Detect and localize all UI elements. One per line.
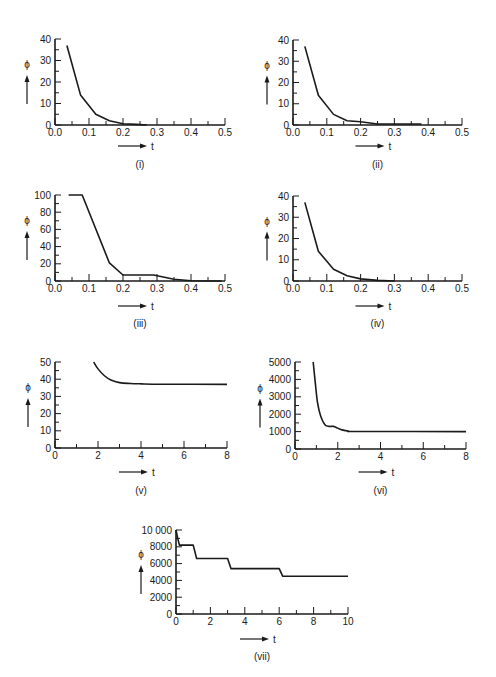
data-series-line [94,362,227,384]
x-tick-label: 6 [420,451,426,462]
data-series-line [305,202,395,281]
y-arrowhead-icon [258,399,263,406]
x-axis-label: t [151,301,154,312]
y-tick-label: 0 [45,443,51,454]
y-arrowhead-icon [265,76,270,83]
y-axis-label: ϕ [24,59,30,70]
y-axis-label: ϕ [264,60,270,71]
x-tick-label: 0.4 [184,127,198,138]
x-tick-label: 0 [173,616,179,627]
x-axis-label: t [152,467,155,478]
x-tick-label: 0.0 [286,283,300,294]
y-tick-label: 40 [40,34,52,45]
data-series-line [69,195,222,281]
x-tick-label: 2 [335,451,341,462]
y-tick-label: 4000 [269,374,292,385]
x-tick-label: 0.5 [218,283,232,294]
y-tick-label: 40 [278,191,290,202]
x-tick-label: 0.1 [82,283,96,294]
y-tick-label: 20 [278,77,290,88]
x-tick-label: 8 [463,451,469,462]
chart-i: 0102030400.00.10.20.30.40.5ϕt(i) [24,34,232,171]
y-tick-label: 10 [40,98,52,109]
x-tick-label: 10 [342,616,354,627]
y-tick-label: 4000 [150,575,173,586]
x-arrowhead-icon [140,304,147,309]
x-tick-label: 0.4 [421,283,435,294]
x-tick-label: 0.0 [48,127,62,138]
x-tick-label: 0.4 [184,283,198,294]
x-tick-label: 0.4 [421,127,435,138]
x-axis-label: t [151,141,154,152]
y-axis-label: ϕ [25,382,31,393]
x-tick-label: 4 [242,616,248,627]
x-tick-label: 0.2 [354,283,368,294]
x-tick-label: 0 [52,450,58,461]
x-tick-label: 0.1 [320,127,334,138]
x-axis-label: t [392,467,395,478]
x-tick-label: 0.3 [150,283,164,294]
data-series-line [305,46,422,124]
y-tick-label: 30 [40,55,52,66]
x-tick-label: 0.3 [387,127,401,138]
y-tick-label: 20 [40,258,52,269]
x-tick-label: 0.0 [286,127,300,138]
panel-label: (i) [136,159,145,170]
x-tick-label: 4 [378,451,384,462]
y-arrowhead-icon [265,232,270,239]
y-tick-label: 0 [166,609,172,620]
chart-ii: 0102030400.00.10.20.30.40.5ϕt(ii) [264,35,469,171]
y-tick-label: 30 [278,212,290,223]
x-arrowhead-icon [381,470,388,475]
x-arrowhead-icon [262,637,269,642]
y-arrowhead-icon [25,75,30,82]
x-arrowhead-icon [141,470,148,475]
chart-vii: 0200040006000800010 0000246810ϕt(vii) [138,525,354,663]
y-tick-label: 40 [40,374,52,385]
x-axis-label: t [389,141,392,152]
panel-label: (iii) [133,318,146,329]
x-tick-label: 0.3 [150,127,164,138]
y-tick-label: 20 [278,233,290,244]
chart-v: 0102030405002468ϕt(v) [25,357,230,497]
y-tick-label: 1000 [269,426,292,437]
x-tick-label: 2 [95,450,101,461]
x-tick-label: 0.5 [455,283,469,294]
x-tick-label: 2 [208,616,214,627]
x-tick-label: 8 [224,450,230,461]
y-tick-label: 20 [40,77,52,88]
x-tick-label: 0.1 [320,283,334,294]
y-axis-label: ϕ [257,383,263,394]
y-tick-label: 10 [278,98,290,109]
x-tick-label: 0.2 [116,127,130,138]
y-tick-label: 8000 [150,541,173,552]
data-series-line [67,45,147,125]
panel-label: (ii) [372,159,383,170]
x-arrowhead-icon [140,144,147,149]
y-axis-label: ϕ [24,215,30,226]
y-arrowhead-icon [25,231,30,238]
y-tick-label: 2000 [269,409,292,420]
y-tick-label: 2000 [150,592,173,603]
data-series-line [176,530,348,576]
y-tick-label: 30 [40,391,52,402]
y-tick-label: 20 [40,408,52,419]
x-tick-label: 0.3 [387,283,401,294]
x-tick-label: 0.1 [82,127,96,138]
chart-iii: 0204060801000.00.10.20.30.40.5ϕt(iii) [24,190,232,330]
y-tick-label: 3000 [269,391,292,402]
x-tick-label: 0.2 [354,127,368,138]
x-axis-label: t [389,301,392,312]
x-tick-label: 0 [292,451,298,462]
chart-vi: 01000200030004000500002468ϕt(vi) [257,357,469,497]
y-tick-label: 10 [40,425,52,436]
x-arrowhead-icon [378,144,385,149]
y-tick-label: 10 [278,254,290,265]
panel-label: (v) [135,485,147,496]
chart-iv: 0102030400.00.10.20.30.40.5ϕt(iv) [264,191,469,330]
panel-label: (vii) [254,651,270,662]
y-tick-label: 40 [40,241,52,252]
y-tick-label: 60 [40,224,52,235]
y-arrowhead-icon [26,398,31,405]
x-axis-label: t [273,634,276,645]
